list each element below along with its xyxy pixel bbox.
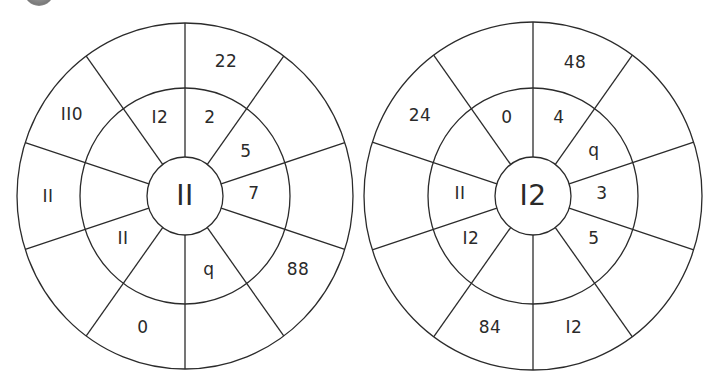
wheels-drawing <box>0 0 716 388</box>
middle-ring-value: II <box>454 185 465 202</box>
middle-ring-value: q <box>588 142 599 159</box>
outer-ring-value: 0 <box>137 319 148 336</box>
outer-ring-value: 48 <box>564 54 587 71</box>
outer-ring-value: II <box>42 188 53 205</box>
middle-ring-value: 7 <box>248 185 259 202</box>
middle-ring-value: 5 <box>240 143 251 160</box>
middle-ring-value: II <box>117 230 128 247</box>
middle-ring-value: I2 <box>152 109 169 126</box>
outer-ring-value: 22 <box>215 53 238 70</box>
outer-ring-value: II0 <box>61 106 83 123</box>
outer-ring-value: 84 <box>479 319 502 336</box>
diagram-stage: II 2 5 7 q II I2 22 88 0 II II0 I2 4 q 3… <box>0 0 716 388</box>
outer-ring-value: I2 <box>566 319 583 336</box>
middle-ring-value: 4 <box>553 109 564 126</box>
middle-ring-value: 0 <box>501 109 512 126</box>
outer-ring-value: 24 <box>409 107 432 124</box>
middle-ring-value: I2 <box>463 230 480 247</box>
outer-ring-value: 88 <box>287 261 310 278</box>
middle-ring-value: 3 <box>596 185 607 202</box>
middle-ring-value: q <box>203 261 214 278</box>
middle-ring-value: 5 <box>588 230 599 247</box>
middle-ring-value: 2 <box>204 109 215 126</box>
wheel-center-value: II <box>176 182 194 210</box>
wheel-center-value: I2 <box>519 182 546 210</box>
